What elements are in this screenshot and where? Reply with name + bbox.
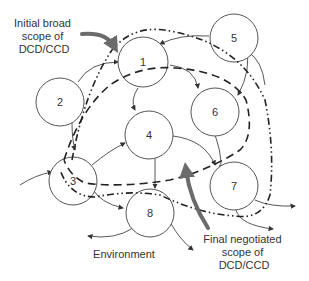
node-2: 2 xyxy=(36,78,84,126)
initial-scope-callout-arrow xyxy=(82,34,114,46)
svg-text:3: 3 xyxy=(70,175,76,187)
svg-text:5: 5 xyxy=(231,32,237,44)
svg-text:2: 2 xyxy=(57,96,63,108)
scope-diagram: 1 2 3 4 5 6 7 8 Initial broad scope of D… xyxy=(0,0,309,281)
final-scope-callout-arrow xyxy=(186,170,208,228)
node-1: 1 xyxy=(118,37,168,87)
node-6: 6 xyxy=(191,88,239,136)
final-scope-label: Final negotiated scope of DCD/CCD xyxy=(203,233,284,271)
node-7: 7 xyxy=(210,162,258,210)
node-3: 3 xyxy=(49,157,97,205)
svg-text:8: 8 xyxy=(147,207,153,219)
node-4: 4 xyxy=(125,111,173,159)
environment-label: Environment xyxy=(93,248,155,260)
svg-text:1: 1 xyxy=(140,56,146,68)
node-5: 5 xyxy=(210,14,258,62)
svg-text:6: 6 xyxy=(212,106,218,118)
initial-scope-label: Initial broad scope of DCD/CCD xyxy=(14,17,74,55)
svg-text:4: 4 xyxy=(146,129,152,141)
svg-text:7: 7 xyxy=(231,180,237,192)
node-8: 8 xyxy=(126,189,174,237)
